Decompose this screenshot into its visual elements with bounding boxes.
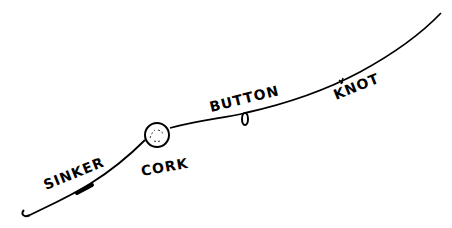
sinker-label: SINKER [41, 154, 107, 193]
cork-label: CORK [140, 155, 190, 179]
hook-icon [22, 210, 30, 216]
button-label: BUTTON [208, 82, 281, 115]
fishing-rig-diagram: SINKER CORK BUTTON KNOT [0, 0, 452, 228]
button-stop-icon [242, 113, 248, 125]
cork-float-icon [145, 123, 169, 147]
